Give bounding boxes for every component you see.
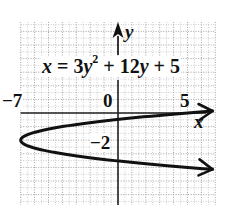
y-axis-label: y: [125, 22, 133, 41]
y-tick-label-neg2: −2: [90, 133, 110, 152]
x-tick-label-5: 5: [180, 91, 190, 110]
x-tick-label-neg7: −7: [2, 91, 22, 110]
equation-label: x = 3y2 + 12y + 5: [41, 56, 181, 77]
x-tick-label-0: 0: [103, 91, 113, 110]
x-axis-label: x: [194, 112, 204, 131]
parabola-graph: [0, 0, 229, 209]
